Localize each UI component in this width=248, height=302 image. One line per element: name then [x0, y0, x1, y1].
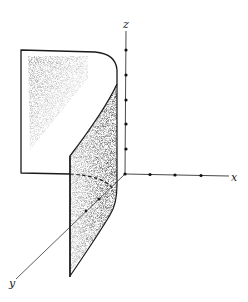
z-axis	[125, 31, 126, 174]
surface-diagram: z x y	[0, 0, 248, 302]
x-axis-label: x	[231, 171, 238, 184]
y-axis-label: y	[8, 277, 16, 290]
x-axis	[125, 174, 229, 176]
z-axis-label: z	[122, 18, 129, 31]
surface-curved-section	[70, 84, 117, 276]
